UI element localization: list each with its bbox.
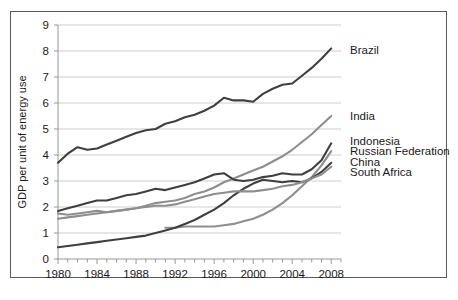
- series-label: South Africa: [350, 166, 413, 178]
- y-tick-label: 6: [43, 97, 49, 109]
- series-label: Brazil: [350, 44, 379, 56]
- y-tick-label: 4: [43, 149, 50, 161]
- x-tick-label: 2000: [240, 268, 266, 280]
- series-line: [58, 116, 331, 219]
- x-tick-label: 1980: [45, 268, 71, 280]
- y-tick-label: 2: [43, 201, 49, 213]
- x-tick-label: 1992: [162, 268, 188, 280]
- y-tick-label: 0: [43, 253, 49, 265]
- chart-figure: 0123456789 19801984198819921996200020042…: [0, 0, 458, 300]
- series-line: [58, 48, 331, 162]
- data-series: [58, 48, 331, 247]
- x-tick-label: 2004: [279, 268, 305, 280]
- x-axis: 19801984198819921996200020042008: [45, 259, 344, 280]
- series-labels: BrazilIndiaIndonesiaRussian FederationCh…: [350, 44, 450, 178]
- y-tick-label: 3: [43, 175, 49, 187]
- x-tick-label: 1988: [123, 268, 149, 280]
- series-line: [58, 163, 331, 248]
- series-line: [165, 151, 331, 228]
- y-axis: 0123456789: [43, 19, 58, 265]
- y-tick-label: 8: [43, 45, 49, 57]
- y-axis-title: GDP per unit of energy use: [16, 75, 28, 208]
- line-chart: 0123456789 19801984198819921996200020042…: [0, 0, 458, 300]
- y-tick-label: 5: [43, 123, 49, 135]
- x-tick-label: 2008: [318, 268, 344, 280]
- y-tick-label: 1: [43, 227, 49, 239]
- x-tick-label: 1984: [84, 268, 110, 280]
- y-tick-label: 9: [43, 19, 49, 31]
- series-line: [58, 143, 331, 211]
- series-label: India: [350, 110, 376, 122]
- gridlines: [58, 25, 341, 233]
- x-tick-label: 1996: [201, 268, 227, 280]
- y-tick-label: 7: [43, 71, 49, 83]
